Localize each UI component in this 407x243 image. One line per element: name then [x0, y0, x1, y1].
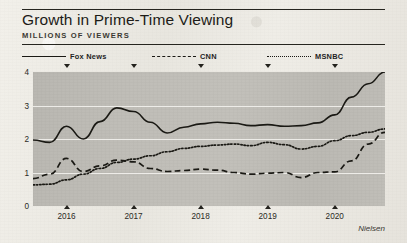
y-tick-label-0: 0: [19, 202, 29, 211]
x-tick-label-2016: 2016: [57, 212, 75, 221]
legend-item-msnbc[interactable]: MSNBC: [267, 50, 343, 62]
x-tick-marker-bottom-2019: [265, 205, 271, 209]
legend-swatch-solid-icon: [22, 53, 66, 60]
y-tick-label-4: 4: [19, 68, 29, 77]
legend-swatch-dashed-icon: [152, 53, 196, 60]
x-tick-marker-bottom-2017: [131, 205, 137, 209]
series-lines: [33, 72, 385, 206]
legend-item-fox-news[interactable]: Fox News: [22, 50, 107, 62]
x-tick-marker-bottom-2016: [64, 205, 70, 209]
x-tick-label-2020: 2020: [326, 212, 344, 221]
x-tick-marker-top-2016: [64, 64, 70, 68]
x-tick-label-2018: 2018: [192, 212, 210, 221]
series-line-fox-news: [33, 72, 385, 142]
chart-legend: Fox News CNN MSNBC: [22, 50, 385, 62]
page-title: Growth in Prime-Time Viewing: [22, 11, 233, 29]
legend-item-cnn[interactable]: CNN: [152, 50, 217, 62]
y-tick-label-3: 3: [19, 101, 29, 110]
y-tick-label-2: 2: [19, 135, 29, 144]
legend-swatch-dotted-icon: [267, 53, 311, 60]
x-tick-marker-top-2018: [198, 64, 204, 68]
chart-subtitle: MILLIONS OF VIEWERS: [22, 31, 130, 40]
subtitle-rule: [22, 44, 385, 45]
legend-label-cnn: CNN: [200, 52, 217, 61]
legend-label-fox-news: Fox News: [70, 52, 107, 61]
x-tick-marker-bottom-2020: [332, 205, 338, 209]
x-tick-marker-top-2020: [332, 64, 338, 68]
x-tick-label-2017: 2017: [124, 212, 142, 221]
x-tick-marker-top-2019: [265, 64, 271, 68]
x-tick-marker-bottom-2018: [198, 205, 204, 209]
x-tick-marker-top-2017: [131, 64, 137, 68]
source-credit: Nielsen: [358, 224, 385, 233]
x-tick-label-2019: 2019: [259, 212, 277, 221]
title-rule-top: [22, 9, 385, 10]
line-chart-plot-area: [33, 72, 385, 206]
legend-label-msnbc: MSNBC: [315, 52, 343, 61]
y-tick-label-1: 1: [19, 168, 29, 177]
